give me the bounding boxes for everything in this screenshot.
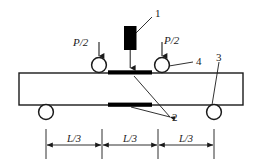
support-roller-right [207,105,222,120]
load-label-left: P/2 [72,36,89,48]
bottom-strip [108,103,152,107]
bending-test-diagram: P/2 P/2 1 4 3 2 L/3 L/3 L/3 [0,0,255,167]
callout-2-label: 2 [172,111,178,123]
callout-4-label: 4 [196,55,202,67]
load-label-right: P/2 [163,34,180,46]
callout-2-leader-bottom [131,107,170,117]
dim-label-segment-2: L/3 [122,133,137,144]
callout-1-label: 1 [155,7,161,19]
dim-label-segment-1: L/3 [66,133,81,144]
loading-roller-left [92,58,107,73]
dim-label-segment-3: L/3 [178,133,193,144]
loading-block [124,26,137,50]
callout-4-leader [169,62,193,66]
callout-3-label: 3 [216,51,222,63]
support-roller-left [39,105,54,120]
figure-container: P/2 P/2 1 4 3 2 L/3 L/3 L/3 [0,0,255,167]
loading-roller-right [155,58,170,73]
callout-1-leader [136,17,152,33]
beam-specimen [19,73,243,105]
top-strip [108,70,152,74]
